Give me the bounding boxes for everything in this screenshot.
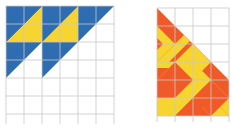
left-pattern-graphic xyxy=(0,0,116,131)
right-pattern-graphic xyxy=(116,0,233,131)
right-figure xyxy=(116,0,233,131)
left-figure xyxy=(0,0,116,131)
